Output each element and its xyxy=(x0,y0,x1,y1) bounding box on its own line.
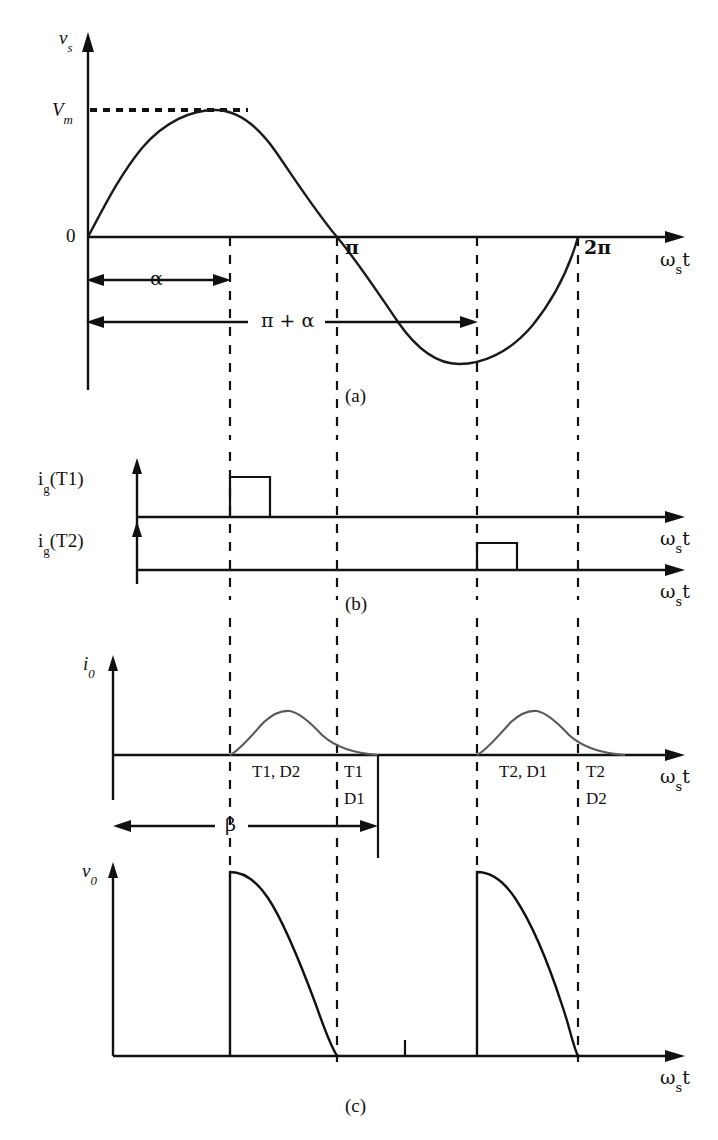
gate-pulse-t2 xyxy=(477,543,517,570)
conduction-label-t2-d1: T2, D1 xyxy=(499,763,547,780)
panel-c-caption: (c) xyxy=(345,1096,366,1115)
alpha-dimension-label: α xyxy=(150,269,163,288)
panel-c-current-group xyxy=(108,655,685,858)
gate-pulse-t1 xyxy=(230,477,270,517)
omega-t-label-panel-c-voltage: ωst xyxy=(660,1068,690,1092)
pi-plus-alpha-dimension-label: π + α xyxy=(261,311,314,330)
alpha-arrow-right xyxy=(213,274,231,286)
panel-a-x-axis-arrow xyxy=(665,231,685,243)
panel-c-current-x-axis-arrow xyxy=(665,749,685,761)
output-current-axis-label: i0 xyxy=(83,654,95,678)
omega-t-label-panel-b-t2: ωst xyxy=(660,582,690,606)
pi-plus-alpha-arrow-right xyxy=(460,316,478,328)
waveform-canvas xyxy=(0,0,718,1140)
panel-b-caption: (b) xyxy=(345,594,367,613)
beta-arrow-right xyxy=(360,820,378,832)
omega-t-label-panel-b-t1: ωst xyxy=(660,529,690,553)
beta-arrow-left xyxy=(113,820,131,832)
panel-b-group xyxy=(132,458,685,584)
panel-c-voltage-y-axis-arrow xyxy=(108,862,118,878)
output-voltage-pulse-1 xyxy=(230,872,337,1056)
output-voltage-axis-label: v0 xyxy=(82,861,97,885)
conduction-label-t1-d1-line2: D1 xyxy=(344,790,365,807)
omega-t-label-panel-c-current: ωst xyxy=(660,767,690,791)
output-current-pulse-2 xyxy=(477,711,625,755)
conduction-label-t1-d1-line1: T1 xyxy=(344,763,363,780)
conduction-label-t2-d2-line1: T2 xyxy=(586,763,605,780)
marker-lines-group xyxy=(230,237,578,1062)
origin-zero-label: 0 xyxy=(66,226,76,245)
beta-dimension-group xyxy=(113,820,378,832)
panel-c-voltage-group xyxy=(108,862,685,1062)
pi-tick-label: π xyxy=(345,238,359,257)
panel-a-caption: (a) xyxy=(345,386,366,405)
gate-current-t1-label: ig(T1) xyxy=(38,469,84,493)
beta-dimension-label: β xyxy=(225,815,236,834)
waveform-figure: vs Vm 0 π 2π ωst α π + α (a) ig(T1) ωst … xyxy=(0,0,718,1140)
panel-b-t2-y-axis-arrow xyxy=(132,521,142,537)
conduction-label-t1-d2: T1, D2 xyxy=(252,763,300,780)
panel-b-t2-x-axis-arrow xyxy=(665,564,685,576)
panel-c-voltage-x-axis-arrow xyxy=(665,1050,685,1062)
conduction-label-t2-d2-line2: D2 xyxy=(586,790,607,807)
peak-voltage-label: Vm xyxy=(52,100,73,124)
panel-a-group xyxy=(82,32,685,390)
panel-b-t1-x-axis-arrow xyxy=(665,511,685,523)
gate-current-t2-label: ig(T2) xyxy=(38,531,84,555)
panel-a-y-axis-arrow xyxy=(82,32,94,52)
panel-c-current-y-axis-arrow xyxy=(108,655,118,671)
output-voltage-pulse-2 xyxy=(477,872,578,1056)
source-voltage-axis-label: vs xyxy=(59,28,72,52)
output-current-pulse-1 xyxy=(230,711,378,755)
panel-b-t1-y-axis-arrow xyxy=(132,458,142,474)
two-pi-tick-label: 2π xyxy=(584,238,611,257)
omega-t-label-panel-a: ωst xyxy=(660,250,690,274)
